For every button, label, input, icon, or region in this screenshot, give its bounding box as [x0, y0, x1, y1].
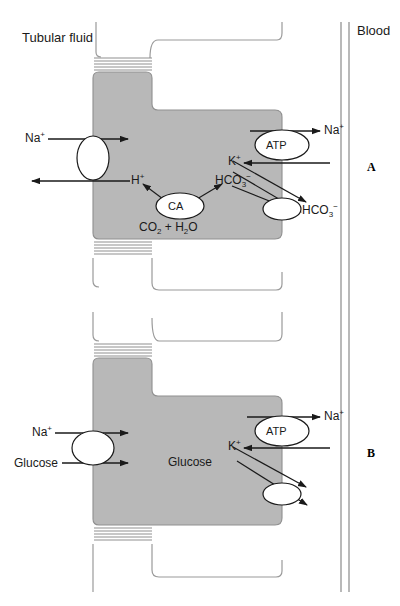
- panel-b-na-in-label: Na+: [32, 426, 52, 438]
- panel-b-k-in-charge: +: [236, 438, 241, 447]
- panel-a-h-out-charge: +: [140, 172, 145, 181]
- panel-a-adjacent-cell-outline: [93, 258, 282, 290]
- panel-b-lower-cell-outline: [93, 544, 282, 592]
- panel-b-tight-junction-top: [94, 344, 152, 356]
- panel-a-tubule-wall: [96, 22, 282, 58]
- figure-canvas: Tubular fluid Blood A B Na+ H+ CA CO2 + …: [0, 0, 400, 606]
- panel-b-glucose-out-label: Glucose: [168, 456, 212, 468]
- panel-a-h-out-label: H+: [131, 174, 144, 186]
- panel-a-basolateral-carrier-oval: [263, 198, 301, 220]
- panel-a-hco3-out-charge: −: [333, 202, 338, 211]
- panel-a-tight-junction-top: [94, 58, 152, 70]
- panel-a-tight-junction-bottom: [94, 242, 152, 254]
- panel-b-group: [55, 312, 330, 592]
- panel-a-hco3-charge: −: [246, 172, 251, 181]
- panel-a-na-in-charge: +: [40, 130, 45, 139]
- blood-vessel-boundary: [341, 22, 349, 592]
- panel-a-na-in-text: Na: [25, 131, 40, 145]
- panel-a-hco3-cytosol-label: HCO3−: [215, 174, 251, 186]
- panel-b-na-out-label: Na+: [324, 410, 344, 422]
- panel-b-letter: B: [367, 446, 375, 461]
- panel-a-na-in-label: Na+: [25, 132, 45, 144]
- panel-b-basolateral-carrier-oval: [263, 483, 301, 505]
- panel-b-tight-junction-bottom: [94, 528, 152, 540]
- panel-a-hco3-sub: 3: [242, 180, 246, 189]
- panel-a-hco3-text: HCO: [215, 173, 242, 187]
- panel-a-substrate-label: CO2 + H2O: [139, 221, 198, 233]
- panel-b-k-in-text: K: [228, 439, 236, 453]
- panel-b-cell-body: [93, 358, 282, 525]
- panel-b-na-in-charge: +: [47, 424, 52, 433]
- panel-a-k-in-label: K+: [228, 155, 241, 167]
- panel-a-hco3-out-text: HCO: [302, 203, 329, 217]
- panel-a-k-in-charge: +: [236, 153, 241, 162]
- panel-b-glucose-in-label: Glucose: [14, 457, 58, 469]
- blood-label: Blood: [357, 24, 390, 37]
- panel-b-atp-label: ATP: [266, 425, 287, 437]
- panel-a-k-in-text: K: [228, 154, 236, 168]
- tubular-fluid-label: Tubular fluid: [22, 31, 93, 44]
- panel-a-atp-label: ATP: [266, 139, 287, 151]
- panel-a-na-out-charge: +: [339, 122, 344, 131]
- panel-a-carbonic-anhydrase-label: CA: [168, 200, 183, 212]
- panel-a-substrate-o: O: [188, 220, 197, 234]
- panel-a-letter: A: [367, 160, 376, 175]
- panel-a-apical-carrier-oval: [77, 136, 109, 180]
- panel-a-group: [32, 22, 330, 290]
- panel-b-na-out-charge: +: [339, 408, 344, 417]
- panel-a-na-out-label: Na+: [324, 124, 344, 136]
- panel-a-na-out-text: Na: [324, 123, 339, 137]
- panel-b-k-in-label: K+: [228, 440, 241, 452]
- panel-b-na-out-text: Na: [324, 409, 339, 423]
- panel-a-hco3-out-sub: 3: [329, 210, 333, 219]
- panel-b-adjacent-cell-outline: [93, 312, 282, 341]
- panel-b-na-in-text: Na: [32, 425, 47, 439]
- panel-b-apical-carrier-oval: [72, 431, 114, 465]
- panel-a-substrate-join: + H: [161, 220, 183, 234]
- panel-a-h-out-text: H: [131, 173, 140, 187]
- panel-a-substrate-co: CO: [139, 220, 157, 234]
- diagram-svg: [0, 0, 400, 606]
- panel-a-hco3-out-label: HCO3−: [302, 204, 338, 216]
